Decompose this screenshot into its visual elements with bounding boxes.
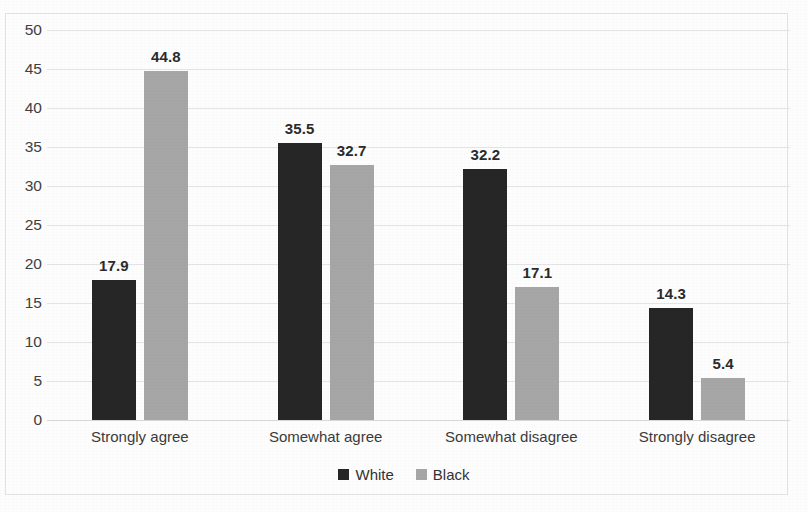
y-axis-tick-label: 5: [8, 372, 42, 390]
y-axis: 05101520253035404550: [0, 30, 42, 420]
bar-value-label: 14.3: [656, 285, 686, 302]
bar-value-label: 32.2: [471, 146, 501, 163]
legend-entry-black[interactable]: Black: [416, 466, 470, 483]
bar-white-somewhat-agree[interactable]: [278, 143, 322, 420]
y-axis-tick-label: 25: [8, 216, 42, 234]
bar-black-somewhat-agree[interactable]: [330, 165, 374, 420]
x-axis-label-somewhat-agree: Somewhat agree: [269, 428, 382, 445]
y-axis-tick-label: 45: [8, 60, 42, 78]
x-axis-label-strongly-disagree: Strongly disagree: [639, 428, 756, 445]
bar-white-strongly-agree[interactable]: [92, 280, 136, 420]
plot-area: 17.944.835.532.732.217.114.35.4: [47, 30, 790, 420]
legend-swatch-icon: [338, 469, 349, 480]
chart-legend: WhiteBlack: [0, 466, 808, 483]
bar-value-label: 35.5: [285, 120, 315, 137]
x-axis-category-labels: Strongly agreeSomewhat agreeSomewhat dis…: [47, 428, 790, 452]
bar-group: 17.944.8: [92, 30, 188, 420]
y-axis-tick-label: 10: [8, 333, 42, 351]
bar-group: 32.217.1: [463, 30, 559, 420]
y-axis-tick-label: 15: [8, 294, 42, 312]
legend-swatch-icon: [416, 469, 427, 480]
y-axis-tick-label: 30: [8, 177, 42, 195]
x-axis-label-strongly-agree: Strongly agree: [91, 428, 189, 445]
bar-value-label: 17.1: [523, 264, 553, 281]
bar-group: 35.532.7: [278, 30, 374, 420]
clipped-title-region: [0, 0, 808, 11]
bar-black-strongly-agree[interactable]: [144, 71, 188, 420]
y-axis-tick-label: 0: [8, 411, 42, 429]
gridline: [47, 420, 790, 421]
legend-entry-white[interactable]: White: [338, 466, 393, 483]
bar-white-somewhat-disagree[interactable]: [463, 169, 507, 420]
y-axis-tick-label: 40: [8, 99, 42, 117]
bar-value-label: 17.9: [99, 257, 129, 274]
bar-value-label: 32.7: [337, 142, 367, 159]
bar-group: 14.35.4: [649, 30, 745, 420]
bar-value-label: 5.4: [713, 355, 734, 372]
x-axis-label-somewhat-disagree: Somewhat disagree: [445, 428, 578, 445]
bar-black-somewhat-disagree[interactable]: [515, 287, 559, 420]
bar-white-strongly-disagree[interactable]: [649, 308, 693, 420]
bar-black-strongly-disagree[interactable]: [701, 378, 745, 420]
y-axis-tick-label: 20: [8, 255, 42, 273]
bar-value-label: 44.8: [151, 48, 181, 65]
y-axis-tick-label: 35: [8, 138, 42, 156]
y-axis-tick-label: 50: [8, 21, 42, 39]
legend-label: Black: [433, 466, 470, 483]
legend-label: White: [355, 466, 393, 483]
scanned-page: 05101520253035404550 17.944.835.532.732.…: [0, 0, 808, 512]
